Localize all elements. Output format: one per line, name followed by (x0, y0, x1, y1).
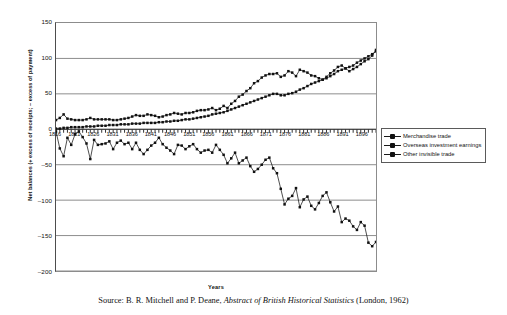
y-axis-tick-label: –100 (24, 198, 52, 204)
legend-label: Other invisible trade (403, 151, 455, 158)
y-axis-tick-label: 150 (24, 19, 52, 25)
source-caption: Source: B. R. Mitchell and P. Deane, Abs… (0, 296, 507, 305)
x-axis-tick-label: 1896 (350, 131, 374, 137)
plot-area (55, 22, 377, 272)
x-axis-tick-labels: 1816182118261831183618411846185118561861… (55, 131, 377, 143)
caption-italic-title: Abstract of British Historical Statistic… (224, 296, 354, 305)
series-overseas-investment-earnings (56, 50, 376, 130)
y-axis-tick-label: 100 (24, 55, 52, 61)
y-axis-tick-label: –200 (24, 269, 52, 275)
y-axis-tick-label: –50 (24, 162, 52, 168)
data-series-layer (56, 23, 376, 271)
legend-item-other-invisible-trade[interactable]: Other invisible trade (384, 150, 481, 159)
series-other-invisible-trade (56, 49, 376, 122)
legend-marker-icon (384, 142, 401, 149)
y-axis-tick-label: 50 (24, 90, 52, 96)
chart-legend: Merchandise trade Overseas investment ea… (381, 128, 486, 163)
legend-marker-icon (384, 133, 401, 140)
legend-item-overseas-investment-earnings[interactable]: Overseas investment earnings (384, 141, 481, 150)
y-axis-tick-labels: 150100500–50–100–150–200 (18, 22, 52, 272)
legend-label: Overseas investment earnings (403, 142, 481, 149)
caption-suffix: (London, 1962) (354, 296, 409, 305)
caption-prefix: Source: B. R. Mitchell and P. Deane, (98, 296, 223, 305)
series-merchandise-trade (56, 130, 376, 247)
y-axis-tick-label: –150 (24, 233, 52, 239)
legend-label: Merchandise trade (403, 133, 451, 140)
legend-marker-icon (384, 151, 401, 158)
legend-item-merchandise-trade[interactable]: Merchandise trade (384, 132, 481, 141)
chart-figure: Net balances (+ excess of receipts; – ex… (0, 0, 507, 315)
x-axis-title: Years (0, 284, 432, 290)
